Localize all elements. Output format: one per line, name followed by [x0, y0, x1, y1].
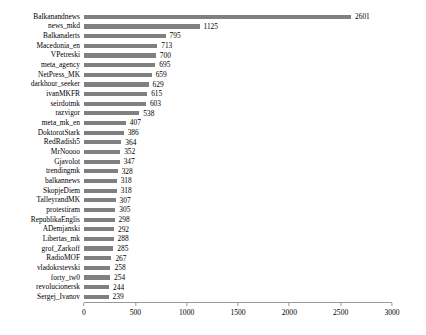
x-tick-label: 500: [130, 309, 141, 317]
category-label: trendingmk: [46, 168, 80, 175]
bar-row: Macedonia_en713: [84, 41, 392, 51]
bar-row: trendingmk328: [84, 167, 392, 177]
category-label: RepublikaEnglis: [31, 216, 80, 223]
x-tick-label: 0: [82, 309, 86, 317]
category-label: MrNoooo: [51, 148, 80, 155]
bar: [84, 102, 146, 106]
bar-value-label: 267: [115, 255, 126, 262]
bar: [84, 15, 351, 19]
bar-value-label: 254: [114, 274, 125, 281]
bar-row: razvigor538: [84, 109, 392, 119]
bar: [84, 275, 110, 279]
bar: [84, 285, 109, 289]
bar-value-label: 538: [143, 110, 154, 117]
bar: [84, 189, 117, 193]
bar: [84, 237, 114, 241]
x-tick-mark: [238, 303, 239, 306]
bar: [84, 218, 115, 222]
bar-value-label: 285: [117, 245, 128, 252]
category-label: seirdotmk: [50, 100, 80, 107]
bar: [84, 169, 118, 173]
category-label: TalleyrandMK: [37, 197, 80, 204]
category-label: meta_mk_en: [42, 119, 80, 126]
bar-value-label: 288: [118, 235, 129, 242]
bar-row: darkhour_seeker629: [84, 80, 392, 90]
bar: [84, 82, 149, 86]
bar: [84, 24, 200, 28]
bar: [84, 150, 120, 154]
plot-area: Balkanandnews2601news_mkd1125Balkanalert…: [84, 12, 392, 302]
x-tick-label: 1500: [230, 309, 245, 317]
bar: [84, 227, 114, 231]
bar-value-label: 307: [120, 197, 131, 204]
bar: [84, 140, 121, 144]
category-label: ivanMKFR: [46, 90, 80, 97]
bar-value-label: 2601: [355, 13, 370, 20]
bar-row: news_mkd1125: [84, 22, 392, 32]
bar-value-label: 298: [119, 216, 130, 223]
bar: [84, 131, 124, 135]
x-tick: 500: [130, 303, 141, 317]
category-label: balkannews: [45, 177, 80, 184]
x-tick-mark: [289, 303, 290, 306]
bar-value-label: 318: [121, 187, 132, 194]
bar: [84, 208, 115, 212]
bar-value-label: 629: [153, 81, 164, 88]
bar: [84, 198, 116, 202]
x-tick-label: 1000: [179, 309, 194, 317]
category-label: Balkanalerts: [43, 32, 80, 39]
bar: [84, 121, 126, 125]
bar: [84, 34, 166, 38]
bar: [84, 246, 113, 250]
bar-row: DoktorotStark386: [84, 128, 392, 138]
category-label: news_mkd: [48, 23, 80, 30]
x-tick: 2500: [333, 303, 348, 317]
category-label: darkhour_seeker: [31, 81, 80, 88]
bar-row: balkannews318: [84, 176, 392, 186]
bar-value-label: 659: [156, 71, 167, 78]
category-label: grof_Zarkoff: [42, 245, 80, 252]
bar: [84, 295, 109, 299]
bar-row: revolucionersk244: [84, 282, 392, 292]
bar-value-label: 713: [161, 42, 172, 49]
bar-row: TalleyrandMK307: [84, 195, 392, 205]
category-label: vladokrstevski: [37, 264, 80, 271]
bar: [84, 256, 111, 260]
category-label: VPetreski: [51, 52, 80, 59]
category-label: Macedonia_en: [36, 42, 80, 49]
category-label: meta_agency: [41, 61, 80, 68]
category-label: Sergej_Ivanov: [37, 293, 80, 300]
bar-value-label: 603: [150, 100, 161, 107]
bar-value-label: 695: [159, 61, 170, 68]
bar-row: Libertas_mk288: [84, 234, 392, 244]
category-label: RedRadish5: [44, 139, 80, 146]
bar-value-label: 305: [119, 206, 130, 213]
x-tick-mark: [340, 303, 341, 306]
bar-row: RedRadish5364: [84, 138, 392, 148]
bar-row: Sergej_Ivanov239: [84, 292, 392, 302]
category-label: protestiram: [46, 206, 80, 213]
bar: [84, 266, 110, 270]
x-tick-mark: [135, 303, 136, 306]
bar-value-label: 239: [113, 293, 124, 300]
bar-row: Balkanalerts795: [84, 31, 392, 41]
bar-row: RadioMOF267: [84, 253, 392, 263]
bar-value-label: 615: [151, 90, 162, 97]
bar-value-label: 386: [128, 129, 139, 136]
bar-value-label: 244: [113, 284, 124, 291]
category-label: forty_tw0: [51, 274, 80, 281]
bar: [84, 160, 120, 164]
bar-value-label: 364: [125, 139, 136, 146]
bar-value-label: 407: [130, 119, 141, 126]
bar: [84, 44, 157, 48]
bar: [84, 179, 117, 183]
bar: [84, 53, 156, 57]
category-label: SkopjeDiem: [43, 187, 80, 194]
bar-row: MrNoooo352: [84, 147, 392, 157]
bar-row: Gjavolot347: [84, 157, 392, 167]
bar-chart: Balkanandnews2601news_mkd1125Balkanalert…: [0, 0, 426, 335]
bar-value-label: 1125: [204, 23, 219, 30]
category-label: ADemjanski: [43, 226, 80, 233]
x-tick-mark: [186, 303, 187, 306]
x-tick: 2000: [282, 303, 297, 317]
